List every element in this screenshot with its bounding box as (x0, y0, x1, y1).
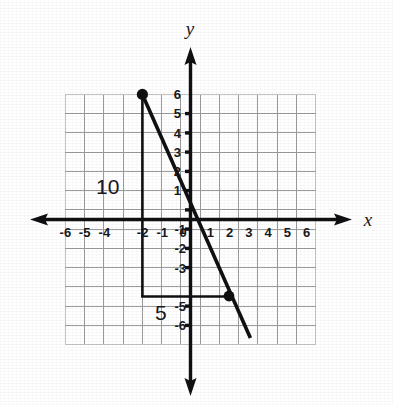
coordinate-plane-figure: -6 -5 -4 -2 -1 0 1 2 3 4 5 6 6 5 4 3 2 1… (0, 0, 393, 405)
x-axis-label: x (363, 209, 373, 230)
y-tick-label-1: 1 (174, 183, 181, 198)
axes (30, 47, 352, 396)
x-tick-label-6: 6 (303, 225, 310, 240)
measure-labels: 10 5 (96, 175, 167, 324)
x-tick-label-1: 1 (207, 225, 214, 240)
y-axis-label: y (184, 18, 195, 39)
x-tick-label-5: 5 (284, 225, 291, 240)
y-tick-label--5: -5 (174, 299, 186, 314)
coordinate-plane-svg: -6 -5 -4 -2 -1 0 1 2 3 4 5 6 6 5 4 3 2 1… (0, 0, 393, 405)
x-tick-label-3: 3 (245, 225, 252, 240)
y-tick-label--1: -1 (174, 222, 186, 237)
y-tick-label-4: 4 (174, 126, 182, 141)
x-tick-label-2: 2 (226, 225, 233, 240)
y-tick-label-3: 3 (174, 145, 181, 160)
y-tick-label-6: 6 (174, 87, 181, 102)
x-tick-label--6: -6 (60, 225, 72, 240)
data-point-a (137, 89, 148, 100)
y-tick-label--3: -3 (174, 261, 186, 276)
x-tick-label--1: -1 (156, 225, 168, 240)
plotted-line-group (137, 89, 251, 338)
axis-names: y x (184, 18, 373, 230)
data-point-b (224, 291, 235, 302)
y-tick-label--2: -2 (174, 241, 186, 256)
x-tick-label--4: -4 (99, 225, 111, 240)
y-tick-label--6: -6 (174, 318, 186, 333)
y-tick-label-2: 2 (174, 164, 181, 179)
run-label: 5 (155, 301, 167, 324)
rise-label: 10 (96, 175, 119, 198)
x-tick-label--5: -5 (79, 225, 91, 240)
x-tick-label--2: -2 (137, 225, 149, 240)
x-tick-label-4: 4 (264, 225, 272, 240)
y-tick-label-5: 5 (174, 106, 181, 121)
